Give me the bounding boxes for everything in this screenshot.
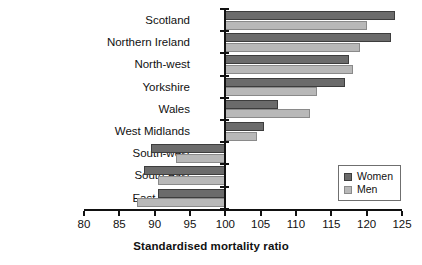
bar-women-west-midlands: [225, 122, 264, 131]
bar-men-west-midlands: [225, 132, 257, 141]
baseline-axis: [224, 8, 226, 209]
x-axis-tick-label: 125: [382, 218, 422, 231]
x-axis-tick-label: 105: [241, 218, 281, 231]
legend-swatch-icon: [344, 173, 352, 181]
baseline-tick: [220, 52, 229, 54]
x-axis-tick: [118, 211, 120, 216]
chart-legend: WomenMen: [338, 165, 401, 201]
baseline-tick: [220, 97, 229, 99]
x-axis-tick-label: 110: [276, 218, 316, 231]
legend-item-men[interactable]: Men: [344, 183, 393, 196]
bar-women-south-east: [144, 166, 225, 175]
chart-container: ScotlandNorthern IrelandNorth-westYorksh…: [0, 0, 422, 265]
bar-women-south-west: [151, 144, 225, 153]
x-axis-tick-label: 95: [170, 218, 210, 231]
x-axis-tick: [83, 211, 85, 216]
bar-women-northern-ireland: [225, 33, 391, 42]
baseline-tick: [220, 186, 229, 188]
x-axis-tick: [224, 211, 226, 216]
legend-label: Women: [357, 171, 393, 182]
bar-men-scotland: [225, 21, 366, 30]
legend-swatch-icon: [344, 186, 352, 194]
bar-men-northern-ireland: [225, 43, 359, 52]
x-axis-line: [84, 209, 402, 211]
x-axis-tick-label: 90: [135, 218, 175, 231]
bar-women-east-anglia: [158, 189, 225, 198]
x-axis-tick: [295, 211, 297, 216]
bar-men-south-west: [176, 154, 225, 163]
x-axis-tick-label: 80: [64, 218, 104, 231]
bar-women-scotland: [225, 11, 395, 20]
baseline-tick: [220, 75, 229, 77]
baseline-tick: [220, 141, 229, 143]
bar-women-north-west: [225, 55, 349, 64]
x-axis-tick: [366, 211, 368, 216]
x-axis-tick: [189, 211, 191, 216]
baseline-tick: [220, 163, 229, 165]
bar-men-wales: [225, 109, 310, 118]
bar-women-yorkshire: [225, 78, 345, 87]
baseline-tick: [220, 8, 229, 10]
legend-item-women[interactable]: Women: [344, 170, 393, 183]
legend-label: Men: [357, 184, 377, 195]
bar-women-wales: [225, 100, 278, 109]
x-axis-tick-label: 115: [311, 218, 351, 231]
x-axis-tick-label: 100: [205, 218, 245, 231]
x-axis-tick-label: 120: [347, 218, 387, 231]
baseline-tick: [220, 30, 229, 32]
x-axis-tick: [401, 211, 403, 216]
x-axis-tick: [154, 211, 156, 216]
bar-men-south-east: [158, 176, 225, 185]
x-axis-tick-label: 85: [99, 218, 139, 231]
bar-men-yorkshire: [225, 87, 317, 96]
bar-men-north-west: [225, 65, 352, 74]
x-axis-tick: [330, 211, 332, 216]
x-axis-title: Standardised mortality ratio: [0, 240, 422, 252]
x-axis-tick: [260, 211, 262, 216]
baseline-tick: [220, 119, 229, 121]
bar-men-east-anglia: [137, 198, 225, 207]
